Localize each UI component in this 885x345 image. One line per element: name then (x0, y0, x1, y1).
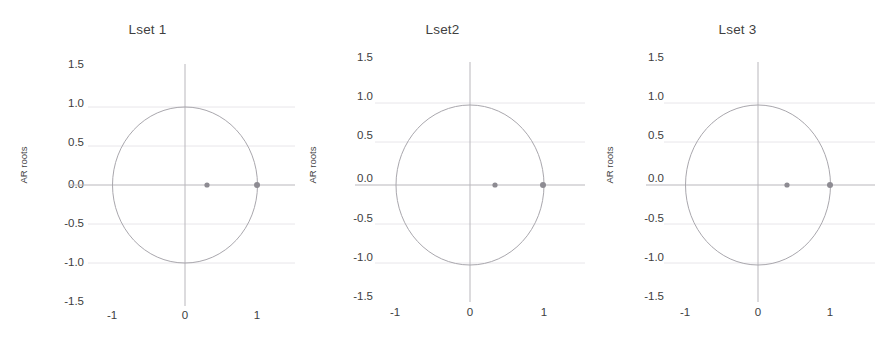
data-point-marker (540, 182, 546, 188)
data-point-marker (254, 182, 260, 188)
data-point-marker (784, 182, 789, 187)
data-point-marker (492, 182, 497, 187)
data-point-marker (827, 182, 833, 188)
figure-canvas: Lset 1 AR roots 1.5 1.0 0.5 0.0 -0.5 -1.… (0, 0, 885, 345)
chart-panel-2: Lset2 AR roots 1.5 1.0 0.5 0.0 -0.5 -1.0… (295, 0, 590, 345)
data-point-marker (204, 182, 209, 187)
chart-panel-3: Lset 3 AR roots 1.5 1.0 0.5 0.0 -0.5 -1.… (590, 0, 885, 345)
plot-area-3 (590, 0, 885, 345)
plot-area-2 (295, 0, 590, 345)
chart-panel-1: Lset 1 AR roots 1.5 1.0 0.5 0.0 -0.5 -1.… (0, 0, 295, 345)
plot-area-1 (0, 0, 295, 345)
